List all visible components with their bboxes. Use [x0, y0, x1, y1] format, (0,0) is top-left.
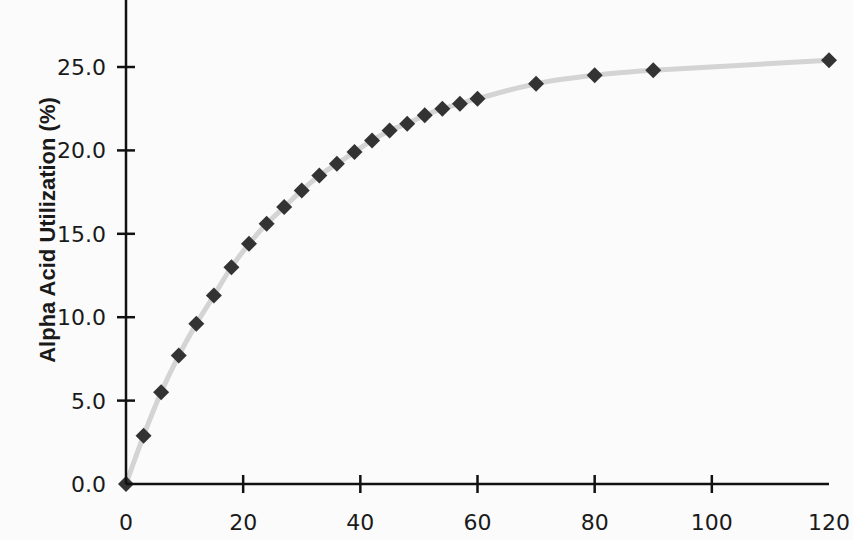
data-point-diamond [434, 101, 450, 117]
data-point-diamond [528, 76, 544, 92]
data-point-diamond [136, 428, 152, 444]
x-tick-label: 80 [581, 510, 609, 535]
x-tick-label: 60 [464, 510, 492, 535]
data-point-diamond [452, 96, 468, 112]
alpha-acid-utilization-chart: 0.05.010.015.020.025.0020406080100120 Al… [0, 0, 853, 540]
y-tick-label: 15.0 [57, 222, 106, 247]
plot-area [118, 52, 837, 492]
data-point-diamond [587, 67, 603, 83]
y-axis-title: Alpha Acid Utilization (%) [35, 97, 60, 363]
y-tick-label: 20.0 [57, 138, 106, 163]
x-tick-label: 120 [808, 510, 850, 535]
y-tick-label: 25.0 [57, 55, 106, 80]
y-tick-label: 10.0 [57, 305, 106, 330]
y-tick-label: 5.0 [71, 389, 106, 414]
data-point-diamond [417, 107, 433, 123]
data-point-diamond [399, 116, 415, 132]
x-tick-label: 20 [229, 510, 257, 535]
x-tick-label: 0 [119, 510, 133, 535]
data-point-diamond [645, 62, 661, 78]
data-point-diamond [470, 91, 486, 107]
data-point-diamond [821, 52, 837, 68]
axes: 0.05.010.015.020.025.0020406080100120 [57, 0, 850, 535]
x-tick-label: 40 [346, 510, 374, 535]
data-point-diamond [153, 384, 169, 400]
x-tick-label: 100 [691, 510, 733, 535]
y-tick-label: 0.0 [71, 472, 106, 497]
